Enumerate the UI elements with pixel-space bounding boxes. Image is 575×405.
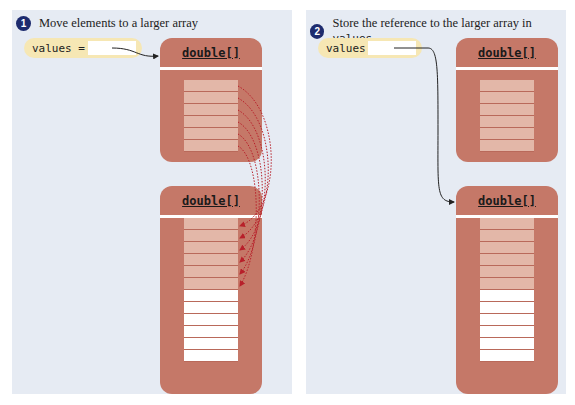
reference-arrow [306, 10, 566, 394]
step-2-panel: 2 Store the reference to the larger arra… [306, 10, 566, 394]
reference-arrow [112, 48, 158, 56]
copy-arrows [12, 10, 292, 394]
step-1-panel: 1 Move elements to a larger array values… [12, 10, 292, 394]
